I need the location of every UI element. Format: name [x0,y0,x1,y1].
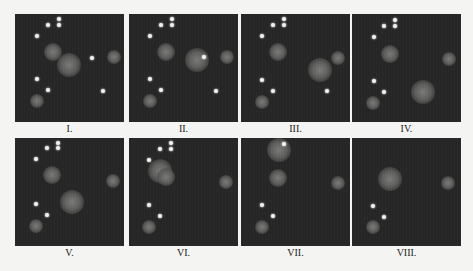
white-dot [325,89,329,93]
gray-blob [269,169,287,187]
gray-blob [57,53,81,77]
white-dot [393,24,397,28]
white-dot [57,17,61,21]
panel-7 [241,138,350,246]
gray-blob [255,95,269,109]
gray-blob [157,168,175,186]
white-dot [34,157,38,161]
gray-blob [157,43,175,61]
panel-5 [15,138,124,246]
white-dot [45,213,49,217]
white-dot [282,23,286,27]
white-dot [90,56,94,60]
white-dot [35,34,39,38]
white-dot [101,89,105,93]
gray-blob [267,138,291,162]
gray-blob [220,50,234,64]
white-dot [34,202,38,206]
panel-1 [15,14,124,122]
gray-blob [381,45,399,63]
white-dot [371,204,375,208]
white-dot [45,146,49,150]
gray-blob [442,52,456,66]
white-dot [372,79,376,83]
white-dot [372,35,376,39]
panel-label: III. [241,124,350,134]
gray-blob [142,220,156,234]
white-dot [282,17,286,21]
panel-8 [352,138,461,246]
gray-blob [269,43,287,61]
gray-blob [366,220,380,234]
white-dot [35,77,39,81]
white-dot [158,147,162,151]
panel-label: I. [15,124,124,134]
gray-blob [219,175,233,189]
gray-blob [331,51,345,65]
white-dot [202,55,206,59]
white-dot [159,88,163,92]
white-dot [148,34,152,38]
white-dot [260,78,264,82]
gray-blob [107,50,121,64]
gray-blob [441,176,455,190]
white-dot [214,89,218,93]
gray-blob [185,48,209,72]
white-dot [158,214,162,218]
panel-label: VIII. [352,248,461,258]
gray-blob [255,220,269,234]
panel-label: II. [129,124,238,134]
white-dot [56,146,60,150]
white-dot [57,23,61,27]
white-dot [260,203,264,207]
gray-blob [411,80,435,104]
white-dot [159,23,163,27]
panel-label: VII. [241,248,350,258]
white-dot [169,147,173,151]
white-dot [382,215,386,219]
white-dot [46,88,50,92]
panel-label: V. [15,248,124,258]
gray-blob [331,176,345,190]
white-dot [382,24,386,28]
panel-label: IV. [352,124,461,134]
white-dot [147,203,151,207]
panel-label: VI. [129,248,238,258]
gray-blob [143,94,157,108]
white-dot [170,17,174,21]
white-dot [382,90,386,94]
gray-blob [29,219,43,233]
panel-2 [129,14,238,122]
gray-blob [366,96,380,110]
white-dot [260,34,264,38]
white-dot [147,158,151,162]
white-dot [170,23,174,27]
gray-blob [378,167,402,191]
white-dot [56,141,60,145]
white-dot [271,89,275,93]
white-dot [271,214,275,218]
white-dot [393,18,397,22]
white-dot [46,23,50,27]
white-dot [148,77,152,81]
panel-4 [352,14,461,122]
white-dot [271,23,275,27]
gray-blob [30,94,44,108]
white-dot [169,141,173,145]
panel-3 [241,14,350,122]
gray-blob [308,58,332,82]
gray-blob [43,166,61,184]
gray-blob [60,190,84,214]
gray-blob [106,174,120,188]
white-dot [282,142,286,146]
panel-6 [129,138,238,246]
